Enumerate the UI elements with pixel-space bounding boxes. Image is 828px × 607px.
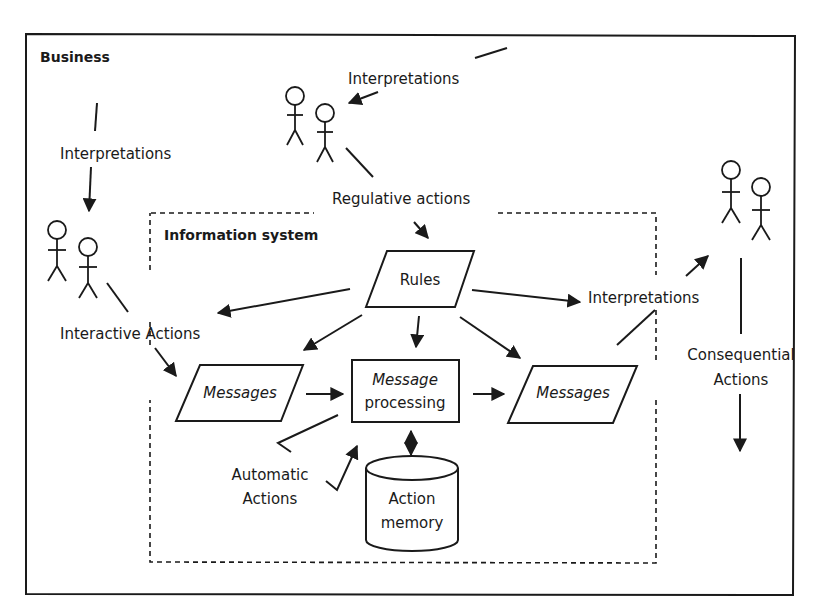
stick-figure-icon [722, 161, 740, 223]
rules-to-interactive-arrow [218, 289, 350, 313]
message-processing-line2: processing [365, 394, 446, 412]
interpretations-left-label: Interpretations [60, 145, 172, 163]
stick-figure-icon [79, 238, 97, 298]
messages-out-to-interpretations-link [617, 310, 655, 345]
information-system-label: Information system [164, 227, 318, 243]
rules-to-interpretations-arrow [472, 290, 580, 302]
action-memory-line1: Action [389, 490, 436, 508]
interpretations-left-tail [95, 103, 97, 131]
interactive-arrow [155, 348, 176, 376]
stick-figure-icon [752, 178, 770, 240]
automatic-actions-line1: Automatic [232, 466, 309, 484]
action-memory-node: Action memory [366, 456, 458, 551]
messages-in-node: Messages [176, 365, 303, 421]
automatic-actions-out-link [278, 415, 338, 452]
messages-out-label: Messages [536, 384, 610, 402]
stick-figure-icon [316, 104, 334, 162]
message-processing-node: Message processing [352, 360, 459, 422]
interpretations-top-tail [475, 48, 507, 58]
messages-out-node: Messages [508, 366, 637, 423]
interpretations-top-label: Interpretations [348, 70, 460, 88]
stick-figure-icon [286, 87, 304, 145]
regulative-link [346, 148, 373, 177]
regulative-actions-label: Regulative actions [332, 190, 470, 208]
business-information-system-diagram: Business Information system Interpretati… [0, 0, 828, 607]
rules-to-processing-arrow [416, 316, 419, 347]
automatic-actions-line2: Actions [243, 490, 298, 508]
actor-group-top [286, 87, 334, 162]
interpretations-top-arrow [349, 92, 378, 103]
regulative-arrow [414, 222, 428, 238]
interactive-actions-label: Interactive Actions [60, 325, 201, 343]
actor-group-left [48, 221, 97, 298]
action-memory-line2: memory [381, 514, 444, 532]
message-processing-line1: Message [372, 371, 438, 389]
interactive-link [107, 283, 128, 312]
rules-node: Rules [366, 251, 474, 307]
interpretations-left-arrow [89, 167, 91, 211]
actor-group-right [722, 161, 770, 240]
consequential-line1: Consequential [687, 346, 794, 364]
rules-label: Rules [400, 271, 441, 289]
messages-in-label: Messages [203, 384, 277, 402]
business-label: Business [40, 49, 110, 65]
rules-to-messages-out-arrow [460, 317, 520, 358]
interpretations-right-arrow [686, 256, 708, 276]
interpretations-right-label: Interpretations [588, 289, 700, 307]
consequential-line2: Actions [714, 371, 769, 389]
rules-to-messages-in-arrow [304, 315, 362, 350]
automatic-actions-in-arrow [326, 446, 357, 490]
stick-figure-icon [48, 221, 66, 281]
